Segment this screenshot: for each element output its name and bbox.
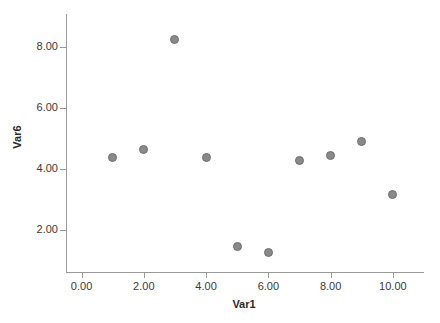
scatter-chart: 2.004.006.008.00 0.002.004.006.008.0010.…	[0, 0, 440, 323]
x-tick-mark	[268, 273, 269, 278]
x-tick-label: 6.00	[238, 280, 298, 292]
x-tick-mark	[82, 273, 83, 278]
x-tick-label: 8.00	[301, 280, 361, 292]
y-tick-label: 8.00	[16, 40, 58, 52]
x-tick-mark	[393, 273, 394, 278]
data-point-marker	[295, 156, 304, 165]
x-tick-label: 10.00	[363, 280, 423, 292]
y-tick-label: 2.00	[16, 223, 58, 235]
data-point-marker	[170, 35, 179, 44]
data-point-marker	[388, 190, 397, 199]
x-tick-label: 0.00	[52, 280, 112, 292]
y-axis-title: Var6	[11, 107, 23, 167]
data-point-marker	[233, 242, 242, 251]
data-point-marker	[139, 145, 148, 154]
x-tick-label: 4.00	[176, 280, 236, 292]
background-watermark	[8, 60, 432, 94]
x-tick-label: 2.00	[114, 280, 174, 292]
y-tick-mark	[60, 47, 66, 48]
x-tick-mark	[206, 273, 207, 278]
data-point-marker	[202, 153, 211, 162]
data-point-marker	[357, 137, 366, 146]
x-tick-mark	[144, 273, 145, 278]
data-point-marker	[264, 248, 273, 257]
data-point-marker	[108, 153, 117, 162]
x-tick-mark	[331, 273, 332, 278]
y-tick-mark	[60, 230, 66, 231]
y-axis-line	[66, 14, 67, 273]
y-tick-mark	[60, 108, 66, 109]
data-point-marker	[326, 151, 335, 160]
x-axis-line	[66, 272, 424, 273]
y-tick-mark	[60, 169, 66, 170]
x-axis-title: Var1	[0, 298, 440, 310]
